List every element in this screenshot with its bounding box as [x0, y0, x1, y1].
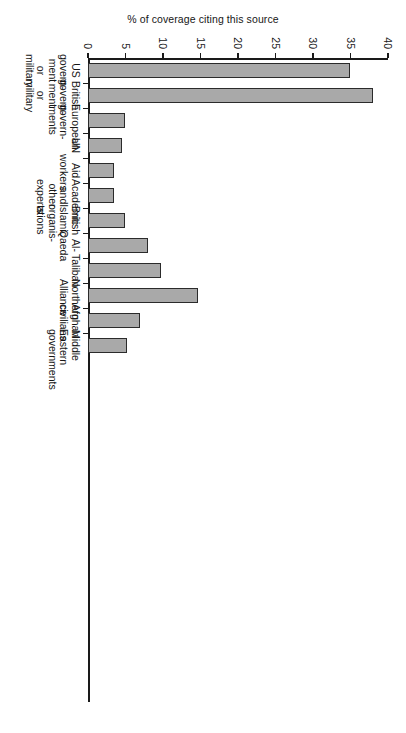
value-axis-line	[88, 58, 388, 60]
category-tick	[83, 283, 88, 284]
value-tick: 25	[275, 53, 276, 58]
bar	[88, 188, 114, 203]
category-tick	[83, 83, 88, 84]
category-axis-line	[88, 58, 90, 702]
bar	[88, 313, 141, 328]
bar	[88, 288, 198, 303]
bar	[88, 113, 126, 128]
category-tick	[83, 258, 88, 259]
bar	[88, 338, 127, 353]
category-tick	[83, 108, 88, 109]
category-tick	[83, 133, 88, 134]
value-tick-label: 25	[270, 37, 282, 49]
value-tick: 5	[125, 53, 126, 58]
rotated-figure-wrapper: % of coverage citing this source 0510152…	[0, 0, 406, 733]
bar-chart: % of coverage citing this source 0510152…	[0, 0, 406, 733]
category-tick	[83, 183, 88, 184]
category-tick	[83, 333, 88, 334]
category-tick	[83, 158, 88, 159]
value-tick-label: 15	[195, 37, 207, 49]
value-tick-label: 30	[307, 37, 319, 49]
category-label: Middle Eastern governments	[46, 329, 81, 362]
bar	[88, 88, 373, 103]
value-tick: 20	[237, 53, 238, 58]
category-tick	[83, 208, 88, 209]
bar	[88, 163, 114, 178]
value-tick-label: 20	[232, 37, 244, 49]
plot-area: 0510152025303540US govern- ment or milit…	[88, 58, 388, 702]
value-tick-label: 10	[157, 37, 169, 49]
bar	[88, 63, 351, 78]
value-tick-label: 40	[382, 37, 394, 49]
bar	[88, 263, 161, 278]
value-tick: 30	[312, 53, 313, 58]
value-tick: 40	[387, 53, 388, 58]
value-tick-label: 0	[82, 43, 94, 49]
value-tick-label: 5	[120, 43, 132, 49]
chart-page: % of coverage citing this source 0510152…	[0, 0, 406, 733]
value-tick: 15	[200, 53, 201, 58]
bar	[88, 213, 126, 228]
bar	[88, 238, 148, 253]
category-tick	[83, 308, 88, 309]
value-tick: 35	[350, 53, 351, 58]
value-tick: 10	[162, 53, 163, 58]
category-tick	[83, 233, 88, 234]
y-axis-title: % of coverage citing this source	[0, 8, 406, 30]
bar	[88, 138, 122, 153]
value-tick: 0	[87, 53, 88, 58]
value-tick-label: 35	[345, 37, 357, 49]
